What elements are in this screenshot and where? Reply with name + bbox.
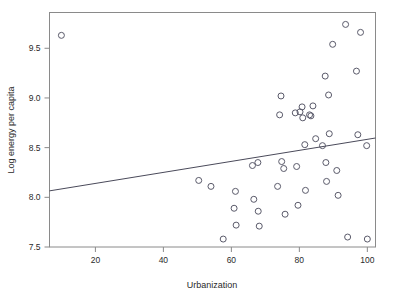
y-tick-label: 9.5: [29, 43, 41, 53]
y-axis-label: Log energy per capita: [6, 86, 16, 173]
plot-background: [0, 0, 398, 298]
y-tick-label: 8.0: [29, 192, 41, 202]
x-tick-label: 20: [91, 255, 101, 265]
x-tick-label: 100: [360, 255, 374, 265]
x-tick-label: 60: [227, 255, 237, 265]
x-tick-label: 40: [159, 255, 169, 265]
y-tick-label: 7.5: [29, 242, 41, 252]
scatter-plot-figure: 20406080100 7.58.08.59.09.5 Urbanization…: [0, 0, 398, 298]
plot-canvas: 20406080100 7.58.08.59.09.5 Urbanization…: [0, 0, 398, 298]
y-tick-label: 8.5: [29, 143, 41, 153]
x-axis-label: Urbanization: [187, 280, 238, 290]
y-tick-label: 9.0: [29, 93, 41, 103]
x-tick-label: 80: [295, 255, 305, 265]
